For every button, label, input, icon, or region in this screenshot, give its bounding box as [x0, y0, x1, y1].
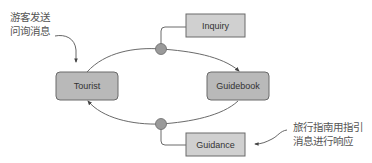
inquiry-message[interactable]: Inquiry — [186, 14, 245, 37]
tourist-node[interactable]: Tourist — [56, 72, 118, 100]
guidebook-node[interactable]: Guidebook — [207, 72, 269, 100]
guidebook-annotation-line1: 旅行指南用指引 — [293, 121, 363, 133]
tourist-annotation-line2: 问询消息 — [10, 25, 50, 37]
message-flow-diagram: Tourist Guidebook Inquiry Guidance 游客发送 … — [0, 0, 372, 163]
tourist-annotation-line1: 游客发送 — [10, 11, 51, 23]
inquiry-connector — [161, 27, 186, 44]
tourist-annotation: 游客发送 问询消息 — [10, 11, 76, 62]
guidance-label: Guidance — [196, 140, 235, 150]
tourist-label: Tourist — [74, 81, 101, 91]
guidebook-annotation-arrow — [255, 130, 287, 144]
tourist-annotation-arrow — [55, 36, 76, 62]
inquiry-junction — [156, 44, 167, 55]
guidebook-annotation: 旅行指南用指引 消息进行响应 — [255, 121, 363, 147]
guidance-junction — [156, 119, 167, 130]
guidance-connector — [161, 129, 186, 145]
guidebook-annotation-line2: 消息进行响应 — [293, 135, 354, 147]
guidebook-label: Guidebook — [216, 81, 260, 91]
guidance-message[interactable]: Guidance — [186, 133, 245, 156]
inquiry-label: Inquiry — [202, 21, 230, 31]
